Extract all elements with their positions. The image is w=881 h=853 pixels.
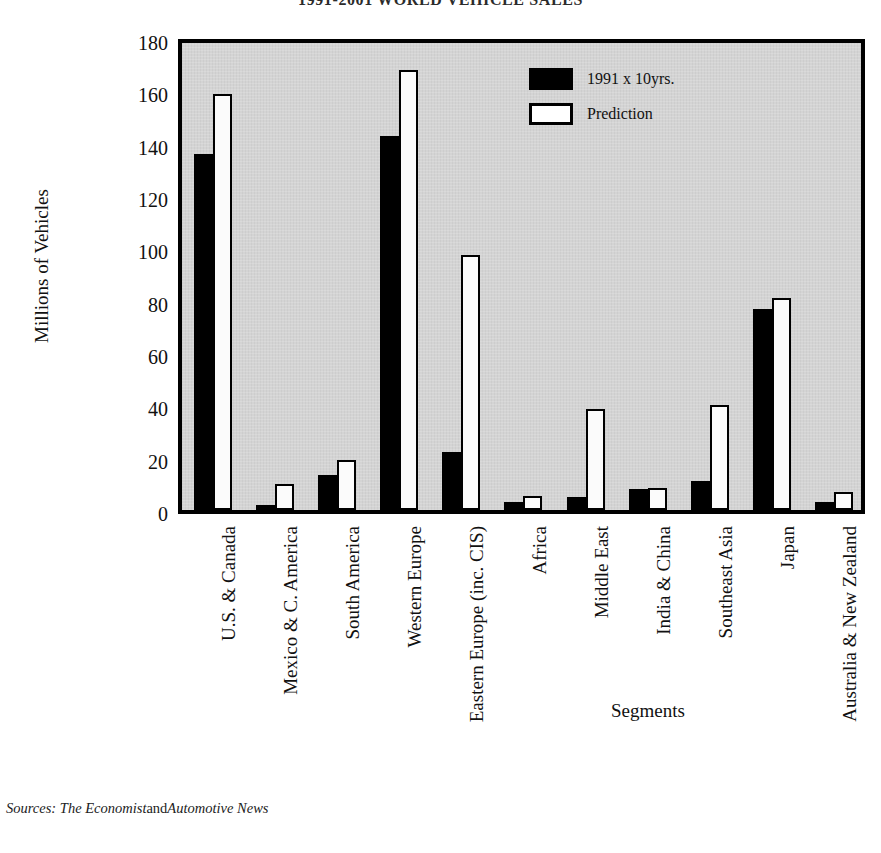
legend-item-1991: 1991 x 10yrs. [529, 68, 675, 90]
bar-prediction [461, 255, 480, 510]
bar-group [430, 43, 492, 510]
x-axis-category-label: Africa [529, 526, 551, 575]
y-tick-label: 180 [108, 32, 168, 55]
bar-group [368, 43, 430, 510]
x-axis-title: Segments [611, 700, 685, 722]
bar-actual [815, 502, 834, 510]
plot-area: 1991 x 10yrs. Prediction [178, 43, 861, 514]
y-tick-label: 160 [108, 84, 168, 107]
legend-swatch-black-icon [529, 68, 573, 90]
bar-actual [380, 136, 399, 510]
chart-page: 1991-2001 WORLD VEHICLE SALES 0204060801… [0, 0, 881, 853]
x-axis-category-label: Southeast Asia [715, 526, 737, 638]
bar-group [244, 43, 306, 510]
legend-label-prediction: Prediction [587, 105, 653, 123]
y-axis: 020406080100120140160180 Millions of Veh… [0, 0, 178, 520]
bar-group [182, 43, 244, 510]
legend-item-prediction: Prediction [529, 103, 675, 125]
source-publication-1: The Economist [60, 800, 147, 816]
y-tick-label: 40 [108, 398, 168, 421]
y-tick-label: 20 [108, 450, 168, 473]
x-axis-category-label: Mexico & C. America [280, 526, 302, 695]
y-axis-title: Millions of Vehicles [31, 136, 53, 396]
source-prefix: Sources: [6, 800, 56, 816]
bar-prediction [834, 492, 853, 510]
x-axis-category-label: U.S. & Canada [218, 526, 240, 641]
x-axis-category-label: India & China [653, 526, 675, 635]
bar-prediction [275, 484, 294, 510]
bar-actual [504, 502, 523, 510]
bar-actual [256, 505, 275, 510]
bar-prediction [337, 460, 356, 510]
x-axis-category-label: Japan [777, 526, 799, 569]
x-axis-category-label: Middle East [591, 526, 613, 618]
bar-prediction [523, 496, 542, 510]
bar-prediction [648, 488, 667, 510]
bar-prediction [772, 298, 791, 510]
bar-actual [442, 452, 461, 510]
x-axis-category-label: Eastern Europe (inc. CIS) [466, 526, 488, 722]
y-tick-label: 60 [108, 346, 168, 369]
bar-actual [691, 481, 710, 510]
y-tick-label: 80 [108, 293, 168, 316]
legend-label-1991: 1991 x 10yrs. [587, 70, 675, 88]
bar-actual [194, 154, 213, 510]
bar-group [741, 43, 803, 510]
x-axis-category-label: Western Europe [404, 526, 426, 647]
bar-prediction [399, 70, 418, 510]
legend: 1991 x 10yrs. Prediction [529, 68, 675, 138]
x-axis-labels: U.S. & CanadaMexico & C. AmericaSouth Am… [0, 520, 881, 780]
y-tick-label: 140 [108, 136, 168, 159]
bar-prediction [213, 94, 232, 510]
bar-prediction [586, 409, 605, 510]
bar-actual [629, 489, 648, 510]
source-conjunction: and [146, 800, 167, 816]
bar-series-container [182, 43, 861, 510]
y-tick-label: 120 [108, 189, 168, 212]
bar-actual [318, 475, 337, 510]
bar-group [803, 43, 865, 510]
source-publication-2: Automotive News [167, 800, 268, 816]
x-axis-category-label: Australia & New Zealand [839, 526, 861, 722]
bar-prediction [710, 405, 729, 510]
legend-swatch-white-icon [529, 103, 573, 125]
bar-group [306, 43, 368, 510]
x-axis-category-label: South America [342, 526, 364, 639]
bar-actual [753, 309, 772, 510]
y-tick-label: 100 [108, 241, 168, 264]
bar-actual [567, 497, 586, 510]
bar-group [679, 43, 741, 510]
source-note: Sources: The EconomistandAutomotive News [6, 800, 268, 817]
